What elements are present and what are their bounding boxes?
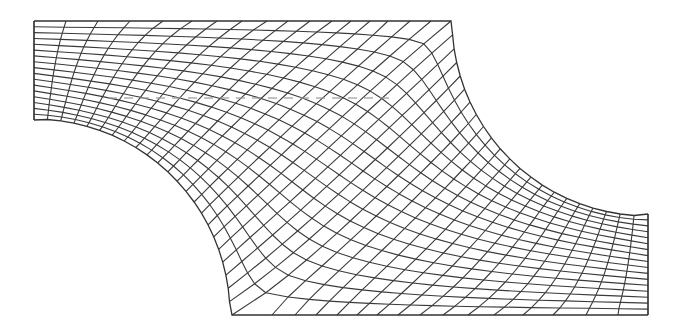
mesh-diagram: Structured quadrilateral mesh of a 2D ch… xyxy=(0,0,676,330)
background xyxy=(0,0,676,330)
